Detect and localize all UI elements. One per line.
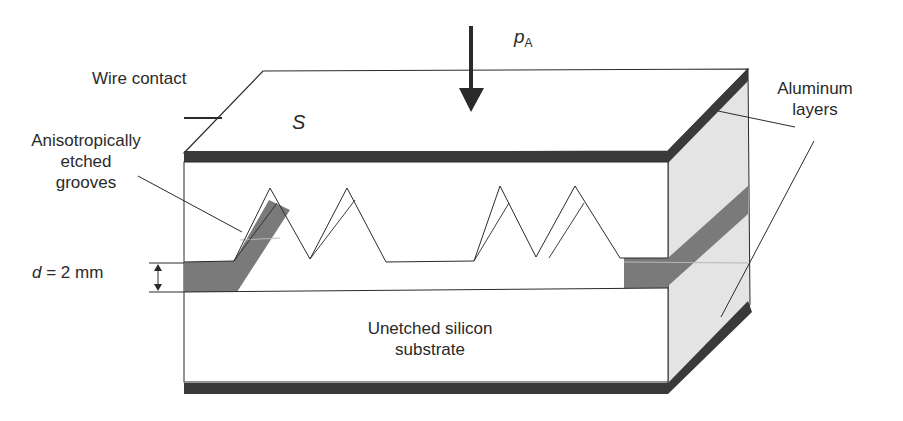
substrate-label-line2: substrate (340, 339, 520, 360)
substrate-label: Unetched silicon substrate (340, 318, 520, 360)
aluminum-label-line2: layers (760, 99, 870, 120)
top-face (184, 69, 748, 153)
thickness-label: d = 2 mm (32, 262, 103, 283)
aluminum-label: Aluminum layers (760, 78, 870, 120)
pressure-symbol: p (514, 26, 525, 47)
aluminum-label-line1: Aluminum (760, 78, 870, 99)
substrate-label-line1: Unetched silicon (340, 318, 520, 339)
bottom-aluminum-layer (184, 383, 668, 394)
top-aluminum-layer (184, 151, 668, 162)
grooves-label-line3: grooves (18, 172, 154, 193)
grooves-label-line2: etched (18, 151, 154, 172)
grooves-label-line1: Anisotropically (18, 130, 154, 151)
pressure-subscript: A (525, 36, 533, 50)
wire-contact-label: Wire contact (92, 68, 186, 89)
pressure-label: pA (514, 26, 533, 50)
thickness-value: = 2 mm (41, 263, 103, 282)
surface-label: S (292, 112, 305, 133)
grooves-label: Anisotropically etched grooves (18, 130, 154, 193)
